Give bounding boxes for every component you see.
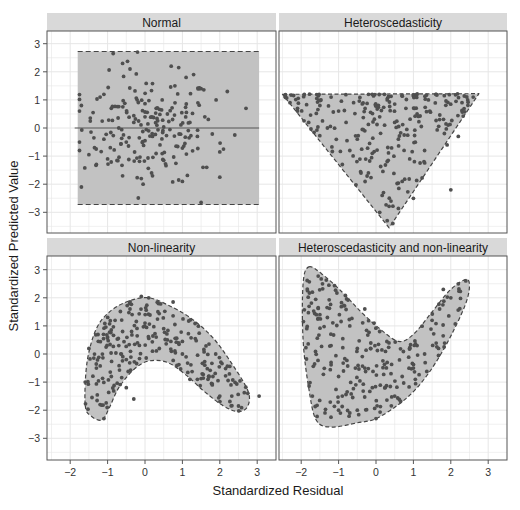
x-tick-label: 0 [373,466,379,478]
x-tick-label: −2 [295,466,307,478]
panel-heteroscedasticity: Heteroscedasticity [279,13,507,233]
x-tick-label: 0 [142,466,148,478]
x-axis-title: Standardized Residual [213,483,344,498]
y-tick-label: −1 [28,150,40,162]
y-tick-label: −2 [28,404,40,416]
y-tick-label: −3 [28,432,40,444]
y-tick-label: 1 [34,94,40,106]
panel-normal: Normal [47,13,276,233]
strip-label-heteroscedasticity: Heteroscedasticity [344,16,442,30]
x-tick-label: 2 [448,466,454,478]
shaded-region [85,298,250,421]
x-tick-label: 1 [410,466,416,478]
faceted-scatter-chart: Normal Heteroscedasticity Non-linearity … [0,0,520,510]
y-tick-label: 2 [34,292,40,304]
y-tick-label: 1 [34,320,40,332]
shaded-region [75,52,259,205]
y-tick-label: 3 [34,264,40,276]
strip-label-normal: Normal [142,16,181,30]
x-tick-label: 3 [254,466,260,478]
panel-heteroscedasticity-and-non-linearity: Heteroscedasticity and non-linearity [279,238,507,460]
x-tick-label: 3 [485,466,491,478]
x-tick-label: −1 [102,466,114,478]
strip-label-heteroscedasticity-non-linearity: Heteroscedasticity and non-linearity [298,241,488,255]
y-tick-label: 0 [34,122,40,134]
x-tick-label: 2 [217,466,223,478]
x-tick-label: 1 [179,466,185,478]
strip-label-non-linearity: Non-linearity [128,241,195,255]
x-tick-label: −2 [64,466,76,478]
y-tick-label: 2 [34,66,40,78]
y-tick-label: −2 [28,178,40,190]
y-axis-ticks: 3210−1−2−33210−1−2−3 [28,38,47,445]
y-tick-label: 0 [34,348,40,360]
y-tick-label: 3 [34,38,40,50]
panel-non-linearity: Non-linearity [47,238,276,460]
x-tick-label: −1 [333,466,345,478]
y-tick-label: −3 [28,206,40,218]
y-tick-label: −1 [28,376,40,388]
y-axis-title: Standardized Predicted Value [6,160,21,331]
x-axis-ticks: −2−10123−2−10123 [64,460,491,478]
